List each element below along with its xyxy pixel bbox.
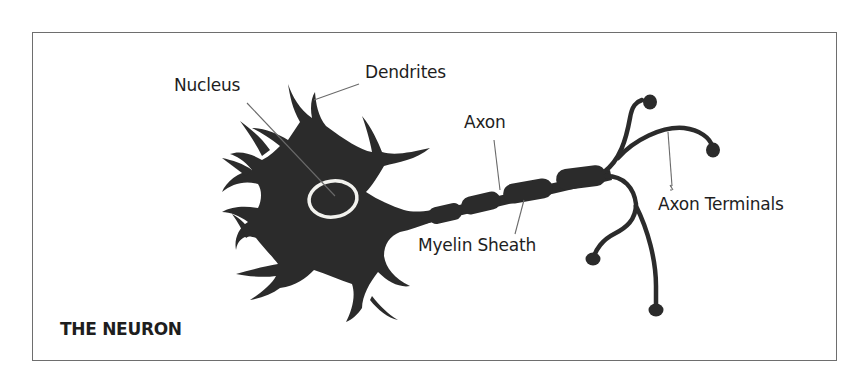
cell-body — [222, 84, 432, 322]
dendrites-leader — [314, 84, 359, 100]
label-nucleus: Nucleus — [174, 77, 240, 94]
diagram-title: THE NEURON — [60, 321, 182, 338]
axon-leader — [494, 140, 500, 190]
myelin-segment-3 — [502, 177, 555, 205]
label-axon-terminals: Axon Terminals — [658, 196, 784, 213]
myelin-leader — [515, 200, 524, 234]
myelin-segment-4 — [555, 164, 607, 191]
myelin-segment-2 — [459, 190, 502, 217]
label-dendrites: Dendrites — [365, 64, 446, 81]
axon — [420, 164, 612, 226]
myelin-segment-1 — [427, 201, 464, 225]
label-axon: Axon — [464, 114, 506, 131]
label-myelin-sheath: Myelin Sheath — [418, 237, 536, 254]
